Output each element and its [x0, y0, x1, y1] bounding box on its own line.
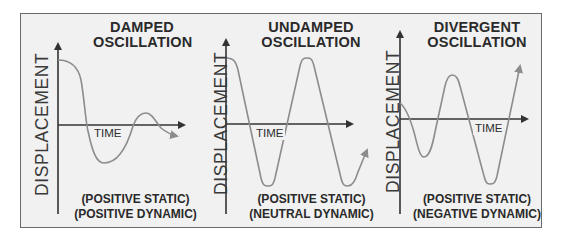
undamped-y-axis-label: DISPLACEMENT: [211, 52, 232, 195]
divergent-stability-note: (POSITIVE STATIC) (NEGATIVE DYNAMIC): [412, 192, 542, 222]
damped-title: DAMPED OSCILLATION: [93, 20, 191, 50]
undamped-curve: [226, 58, 367, 186]
undamped-panel-graph: [226, 40, 367, 214]
damped-x-axis-label: TIME: [92, 127, 123, 140]
undamped-stability-note: (POSITIVE STATIC) (NEUTRAL DYNAMIC): [249, 192, 374, 222]
undamped-x-axis-label: TIME: [254, 127, 285, 140]
undamped-static-stability: (POSITIVE STATIC): [249, 192, 374, 207]
divergent-title-line1: DIVERGENT: [427, 20, 527, 35]
damped-dynamic-stability: (POSITIVE DYNAMIC): [73, 207, 198, 222]
undamped-title: UNDAMPED OSCILLATION: [257, 20, 365, 50]
damped-stability-note: (POSITIVE STATIC) (POSITIVE DYNAMIC): [73, 192, 198, 222]
divergent-y-axis-label: DISPLACEMENT: [383, 50, 404, 193]
undamped-title-line2: OSCILLATION: [257, 35, 365, 50]
damped-title-line2: OSCILLATION: [93, 35, 191, 50]
divergent-dynamic-stability: (NEGATIVE DYNAMIC): [412, 207, 542, 222]
divergent-panel-graph: [400, 32, 527, 214]
divergent-title-line2: OSCILLATION: [427, 35, 527, 50]
damped-y-axis-label: DISPLACEMENT: [32, 53, 53, 196]
damped-static-stability: (POSITIVE STATIC): [73, 192, 198, 207]
divergent-x-axis-label: TIME: [473, 122, 504, 135]
undamped-title-line1: UNDAMPED: [257, 20, 365, 35]
undamped-dynamic-stability: (NEUTRAL DYNAMIC): [249, 207, 374, 222]
divergent-static-stability: (POSITIVE STATIC): [412, 192, 542, 207]
divergent-title: DIVERGENT OSCILLATION: [427, 20, 527, 50]
damped-curve: [58, 60, 177, 163]
damped-title-line1: DAMPED: [93, 20, 191, 35]
